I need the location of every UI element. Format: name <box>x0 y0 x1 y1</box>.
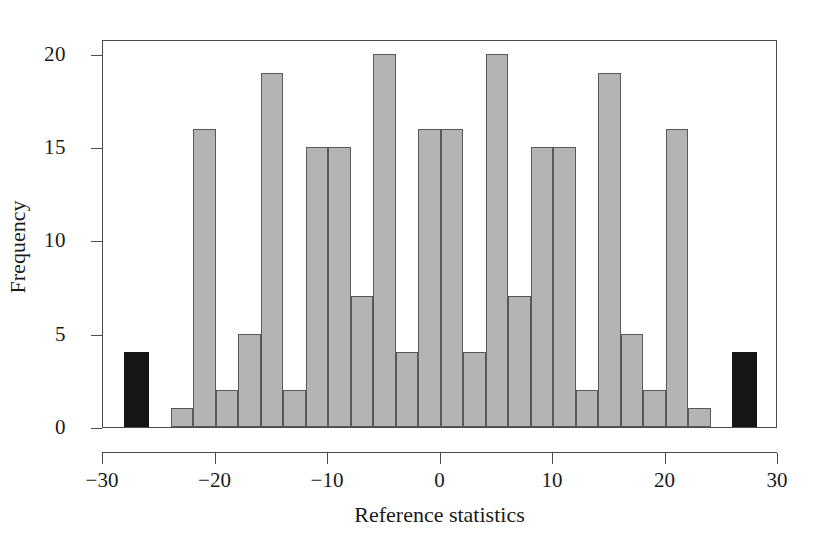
histogram-bar <box>576 390 599 427</box>
histogram-bar <box>124 352 149 427</box>
histogram-bar <box>193 129 216 427</box>
histogram-bar <box>418 129 441 427</box>
histogram-bar <box>531 147 554 427</box>
histogram-bar <box>463 352 486 427</box>
x-axis-tick-label: −20 <box>180 469 250 491</box>
x-axis-tick-label: 10 <box>517 469 587 491</box>
histogram-bar <box>643 390 666 427</box>
histogram-bar <box>216 390 239 427</box>
x-axis-tick-label: 20 <box>630 469 700 491</box>
x-axis-tick-label: 30 <box>742 469 812 491</box>
histogram-bar <box>732 352 757 427</box>
y-axis-tick-mark <box>91 335 102 336</box>
histogram-bar <box>328 147 351 427</box>
plot-area <box>102 40 777 428</box>
histogram-bar <box>441 129 464 427</box>
y-axis-tick-label: 0 <box>55 417 66 438</box>
x-axis-tick-mark <box>777 453 778 464</box>
bars-layer <box>103 41 776 427</box>
histogram-bar <box>553 147 576 427</box>
y-axis-tick-label: 5 <box>55 324 66 345</box>
histogram-bar <box>598 73 621 427</box>
x-axis-tick-mark <box>215 453 216 464</box>
x-axis: −30−20−100102030 <box>102 452 777 453</box>
x-axis-tick-mark <box>327 453 328 464</box>
x-axis-tick-mark <box>665 453 666 464</box>
histogram-bar <box>373 54 396 427</box>
x-axis-tick-label: −10 <box>292 469 362 491</box>
x-axis-tick-label: −30 <box>67 469 137 491</box>
x-axis-tick-mark <box>440 453 441 464</box>
y-axis-tick-label: 20 <box>44 44 66 65</box>
histogram-bar <box>621 334 644 427</box>
histogram-bar <box>283 390 306 427</box>
histogram-figure: Frequency 05101520 −30−20−100102030 Refe… <box>0 0 821 543</box>
histogram-bar <box>261 73 284 427</box>
y-axis-tick-label: 15 <box>44 137 66 158</box>
histogram-bar <box>486 54 509 427</box>
y-axis-tick-label: 10 <box>44 230 66 251</box>
x-axis-tick-label: 0 <box>405 469 475 491</box>
y-axis-tick-mark <box>91 55 102 56</box>
histogram-bar <box>351 296 374 427</box>
histogram-bar <box>688 408 711 427</box>
y-axis-tick-mark <box>91 428 102 429</box>
histogram-bar <box>666 129 689 427</box>
histogram-bar <box>171 408 194 427</box>
y-axis-tick-mark <box>91 241 102 242</box>
x-axis-tick-mark <box>552 453 553 464</box>
x-axis-title: Reference statistics <box>102 502 777 528</box>
histogram-bar <box>508 296 531 427</box>
y-axis-tick-mark <box>91 148 102 149</box>
histogram-bar <box>306 147 329 427</box>
y-axis: 05101520 <box>0 0 102 543</box>
histogram-bar <box>396 352 419 427</box>
histogram-bar <box>238 334 261 427</box>
x-axis-tick-mark <box>102 453 103 464</box>
